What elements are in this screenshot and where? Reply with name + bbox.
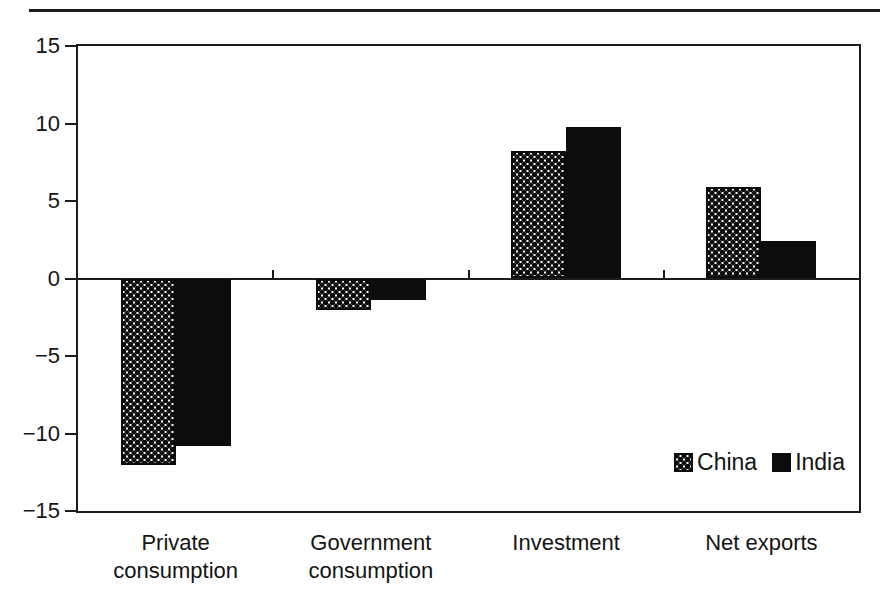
chart-layers: 151050−5−10−15Private consumptionGovernm…	[78, 46, 859, 511]
bar-china-government-consumption	[316, 279, 371, 310]
bar-china-net-exports	[706, 187, 761, 278]
x-axis-boundary-tick	[663, 270, 665, 279]
legend-label-china: China	[697, 450, 757, 474]
bar-india-government-consumption	[371, 279, 426, 301]
x-axis-boundary-tick	[468, 270, 470, 279]
x-axis-category-label: Private consumption	[78, 529, 273, 585]
legend-item-china: China	[674, 450, 757, 474]
bar-india-investment	[566, 127, 621, 279]
legend-india-swatch-icon	[772, 453, 791, 472]
bar-india-net-exports	[761, 241, 816, 278]
y-axis-tick-label: −10	[5, 420, 60, 447]
y-axis-tick-label: 5	[5, 187, 60, 214]
y-axis-tick	[65, 45, 76, 47]
y-axis-tick	[65, 278, 76, 280]
top-rule	[29, 9, 880, 12]
y-axis-tick	[65, 200, 76, 202]
bar-india-private-consumption	[176, 279, 231, 446]
y-axis-tick-label: −5	[5, 342, 60, 369]
y-axis-tick	[65, 123, 76, 125]
x-axis-category-label: Investment	[469, 529, 664, 557]
y-axis-tick-label: 15	[5, 32, 60, 59]
legend-label-india: India	[795, 450, 845, 474]
y-axis-tick-label: 0	[5, 265, 60, 292]
x-axis-category-label: Net exports	[664, 529, 859, 557]
bar-china-private-consumption	[121, 279, 176, 465]
chart-legend: China India	[674, 450, 845, 474]
x-axis-category-label: Government consumption	[273, 529, 468, 585]
x-axis-boundary-tick	[272, 270, 274, 279]
y-axis-tick	[65, 355, 76, 357]
legend-china-swatch-icon	[674, 453, 693, 472]
bar-chart-plot-area: 151050−5−10−15Private consumptionGovernm…	[76, 44, 861, 513]
y-axis-tick-label: −15	[5, 497, 60, 524]
y-axis-tick	[65, 510, 76, 512]
bar-china-investment	[511, 151, 566, 278]
y-axis-tick-label: 10	[5, 110, 60, 137]
y-axis-tick	[65, 433, 76, 435]
figure-page: 151050−5−10−15Private consumptionGovernm…	[0, 0, 896, 600]
legend-item-india: India	[772, 450, 845, 474]
